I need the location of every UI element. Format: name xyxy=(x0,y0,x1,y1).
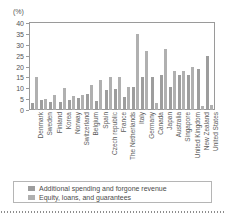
bar xyxy=(145,51,148,110)
x-axis-tick-label: New Zealand xyxy=(203,112,210,150)
bar-group xyxy=(140,23,149,110)
bar-group xyxy=(94,23,103,110)
bar xyxy=(123,97,126,110)
bar xyxy=(31,103,34,110)
chart-legend: Additional spending and forgone revenue … xyxy=(13,181,212,203)
x-axis-tick-label: Norway xyxy=(74,112,81,134)
x-axis-tick-label: Singapore xyxy=(184,112,191,142)
x-axis-tick-label: Japan xyxy=(166,112,173,130)
x-axis-tick-label: Finland xyxy=(56,112,63,133)
y-axis-tick-mark xyxy=(26,56,29,57)
bar xyxy=(191,67,194,111)
y-axis-tick-mark xyxy=(26,67,29,68)
y-axis-tick-label: 10 xyxy=(16,85,24,92)
bar-group xyxy=(39,23,48,110)
bar-group xyxy=(104,23,113,110)
bar xyxy=(90,85,93,110)
bar xyxy=(141,77,144,110)
bar-group xyxy=(159,23,168,110)
x-axis-tick-label: Germany xyxy=(148,112,155,139)
bar xyxy=(155,103,158,110)
bar xyxy=(151,77,154,110)
x-axis-tick-label: Italy xyxy=(138,112,145,124)
bar xyxy=(114,89,117,110)
y-axis: 0510152025303540 xyxy=(0,0,29,130)
bar-group xyxy=(58,23,67,110)
x-axis-tick-label: France xyxy=(120,112,127,132)
bar xyxy=(164,49,167,110)
legend-item-equity-loans-guarantees: Equity, loans, and guarantees xyxy=(28,193,211,202)
bar-group xyxy=(122,23,131,110)
bar xyxy=(86,94,89,110)
bar xyxy=(77,98,80,110)
bar-group xyxy=(150,23,159,110)
bar-group xyxy=(168,23,177,110)
x-axis-tick-label: Australia xyxy=(175,112,182,137)
bar xyxy=(95,101,98,110)
bar xyxy=(173,71,176,110)
bar xyxy=(40,100,43,110)
y-axis-tick-label: 0 xyxy=(20,107,24,114)
bar xyxy=(35,77,38,110)
y-axis-tick-mark xyxy=(26,110,29,111)
bar-group xyxy=(85,23,94,110)
x-axis-tick-label: Sweden xyxy=(46,112,53,136)
y-axis-tick-mark xyxy=(26,77,29,78)
bar xyxy=(118,77,121,110)
bar xyxy=(44,99,47,110)
y-axis-tick-mark xyxy=(26,99,29,100)
legend-label-equity-loans-guarantees: Equity, loans, and guarantees xyxy=(39,194,131,202)
bar-group xyxy=(76,23,85,110)
y-axis-tick-label: 5 xyxy=(20,96,24,103)
bar-group xyxy=(177,23,186,110)
bar-group xyxy=(205,23,214,110)
bar xyxy=(72,96,75,110)
x-axis-tick-label: The Netherlands xyxy=(129,112,136,160)
bars-layer xyxy=(30,23,214,110)
legend-item-additional-spending: Additional spending and forgone revenue xyxy=(28,184,211,193)
y-axis-tick-label: 15 xyxy=(16,74,24,81)
x-axis-tick-label: United States xyxy=(212,112,219,151)
bar-group xyxy=(196,23,205,110)
bar-group xyxy=(48,23,57,110)
bar xyxy=(182,71,185,110)
x-axis-tick-label: United Kingdom xyxy=(194,112,201,158)
bar-group xyxy=(30,23,39,110)
y-axis-tick-mark xyxy=(26,23,29,24)
bar xyxy=(81,95,84,110)
legend-swatch-icon-equity-loans-guarantees xyxy=(28,195,35,200)
bar xyxy=(210,105,213,110)
bar-group xyxy=(186,23,195,110)
bar xyxy=(136,34,139,110)
bar xyxy=(53,95,56,110)
x-axis-tick-label: Canada xyxy=(157,112,164,135)
bar xyxy=(178,75,181,110)
y-axis-tick-mark xyxy=(26,45,29,46)
bar xyxy=(197,69,200,110)
bar xyxy=(59,102,62,110)
bar-group xyxy=(113,23,122,110)
bar xyxy=(127,87,130,110)
bar xyxy=(201,106,204,110)
y-axis-tick-label: 30 xyxy=(16,41,24,48)
bar xyxy=(109,77,112,110)
bar xyxy=(206,56,209,110)
y-axis-tick-label: 35 xyxy=(16,30,24,37)
bar xyxy=(160,75,163,110)
bar-group xyxy=(67,23,76,110)
x-axis-tick-label: Denmark xyxy=(37,112,44,138)
chart-root: (%) 0510152025303540 DenmarkSwedenFinlan… xyxy=(0,0,225,216)
y-axis-tick-label: 40 xyxy=(16,20,24,27)
bar xyxy=(99,80,102,110)
footer-dotted-rule xyxy=(0,211,225,213)
y-axis-tick-mark xyxy=(26,88,29,89)
x-axis-labels: DenmarkSwedenFinlandKoreaNorwaySwitzerla… xyxy=(30,112,214,174)
bar xyxy=(68,100,71,110)
bar xyxy=(187,75,190,110)
bar xyxy=(132,87,135,110)
bar xyxy=(169,87,172,110)
bar-group xyxy=(131,23,140,110)
bar xyxy=(63,88,66,110)
bar xyxy=(49,102,52,110)
x-axis-tick-label: Spain xyxy=(102,112,109,129)
